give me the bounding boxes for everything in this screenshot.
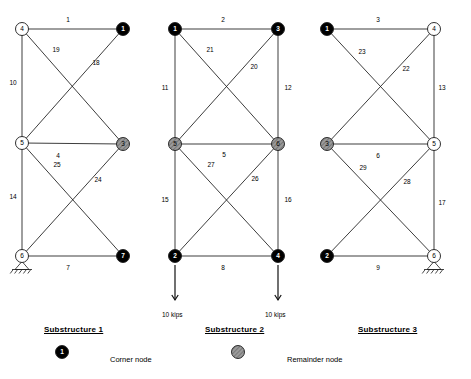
truss-node: 5: [169, 138, 182, 151]
member-label: 26: [251, 175, 259, 182]
truss-node: 6: [428, 250, 441, 263]
member-label: 27: [207, 161, 215, 168]
member-label: 23: [358, 48, 366, 55]
member-label: 3: [376, 16, 380, 23]
member-label: 15: [161, 196, 169, 203]
node-label: 3: [121, 140, 125, 147]
node-label: 2: [173, 252, 177, 259]
substructure-caption: Substructure 2: [205, 325, 264, 334]
member-label: 12: [284, 84, 292, 91]
member-label: 11: [162, 84, 169, 91]
truss-node: 4: [272, 250, 285, 263]
member-label: 28: [403, 178, 411, 185]
truss-node: 1: [117, 23, 130, 36]
node-label: 5: [173, 140, 177, 147]
truss-node: 4: [16, 23, 29, 36]
member-label: 5: [222, 151, 226, 158]
member-label: 1: [66, 16, 70, 23]
member-label: 16: [284, 196, 292, 203]
load-magnitude-label: 10 kips: [162, 311, 183, 318]
truss-node: 3: [117, 138, 130, 151]
node-label: 3: [276, 25, 280, 32]
truss-node: 7: [117, 250, 130, 263]
truss-node: 4: [428, 23, 441, 36]
load-magnitude-label: 10 kips: [265, 311, 286, 318]
truss-node: 1: [321, 23, 334, 36]
truss-member: [22, 143, 123, 144]
loads-layer: [172, 265, 281, 300]
truss-node: 2: [169, 250, 182, 263]
member-label: 18: [92, 59, 100, 66]
member-label: 19: [52, 46, 60, 53]
pin-support: [10, 262, 32, 274]
member-label: 24: [94, 176, 102, 183]
node-label: 4: [20, 25, 24, 32]
members-layer: [22, 29, 434, 256]
node-label: 2: [325, 252, 329, 259]
node-label: 4: [432, 25, 436, 32]
member-label: 22: [402, 65, 410, 72]
member-label: 13: [438, 84, 446, 91]
node-label: 1: [325, 25, 329, 32]
node-label: 5: [432, 140, 436, 147]
truss-node: 6: [272, 138, 285, 151]
substructure-caption: Substructure 1: [44, 325, 103, 334]
load-arrow: [172, 265, 178, 300]
legend-entry-label: Corner node: [110, 355, 152, 364]
node-label: 5: [20, 139, 24, 146]
member-label: 2: [221, 16, 225, 23]
truss-node: 3: [321, 138, 334, 151]
member-label: 6: [376, 152, 380, 159]
truss-substructure-figure: 415367135624143526 119181042524147221201…: [0, 0, 471, 379]
node-label: 1: [173, 25, 177, 32]
node-label: 1: [121, 25, 125, 32]
member-label: 4: [56, 152, 60, 159]
truss-node: 2: [321, 250, 334, 263]
node-label: 6: [432, 252, 436, 259]
member-label: 9: [376, 264, 380, 271]
node-label: 3: [325, 140, 329, 147]
node-label: 6: [276, 140, 280, 147]
legend-entry-label: Remainder node: [287, 355, 342, 364]
load-arrow: [275, 265, 281, 300]
node-label: 4: [276, 252, 280, 259]
substructure-caption: Substructure 3: [358, 325, 417, 334]
remainder-node-symbol: [232, 346, 245, 359]
member-label: 29: [359, 164, 367, 171]
truss-node: 5: [428, 138, 441, 151]
corner-node-symbol: 1: [56, 346, 69, 359]
node-label: 6: [20, 252, 24, 259]
member-label: 10: [9, 79, 17, 86]
member-label: 7: [66, 264, 70, 271]
member-label: 21: [206, 46, 214, 53]
node-label: 7: [121, 252, 125, 259]
truss-diagram-svg: 415367135624143526 119181042524147221201…: [0, 0, 471, 379]
roller-support: [422, 262, 444, 274]
truss-node: 6: [16, 250, 29, 263]
legend-node-label: 1: [60, 348, 64, 355]
member-label: 25: [53, 161, 61, 168]
truss-node: 5: [16, 137, 29, 150]
member-label: 20: [250, 63, 258, 70]
truss-node: 3: [272, 23, 285, 36]
truss-node: 1: [169, 23, 182, 36]
nodes-layer: 415367135624143526: [16, 23, 441, 263]
member-label: 8: [221, 264, 225, 271]
member-label: 17: [438, 199, 446, 206]
member-label: 14: [9, 193, 17, 200]
